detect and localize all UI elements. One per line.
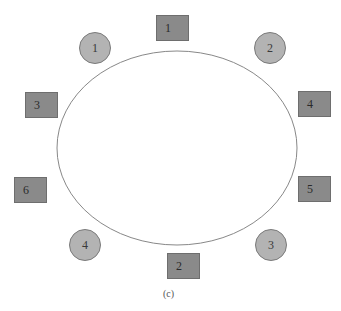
- square-node-4: 4: [298, 91, 331, 117]
- square-node-6: 6: [14, 177, 47, 203]
- square-node-1: 1: [156, 15, 189, 41]
- circle-node-4: 4: [69, 229, 101, 261]
- square-label: 3: [34, 93, 40, 117]
- circle-node-2: 2: [254, 32, 286, 64]
- square-label: 2: [176, 254, 182, 278]
- square-node-5: 5: [298, 176, 331, 202]
- figure-caption: (c): [163, 288, 174, 299]
- square-label: 6: [23, 178, 29, 202]
- square-label: 1: [165, 16, 171, 40]
- circle-node-1: 1: [79, 32, 111, 64]
- square-label: 4: [307, 92, 313, 116]
- square-node-3: 3: [25, 92, 58, 118]
- square-label: 5: [307, 177, 313, 201]
- circle-node-3: 3: [255, 229, 287, 261]
- square-node-2: 2: [167, 253, 200, 279]
